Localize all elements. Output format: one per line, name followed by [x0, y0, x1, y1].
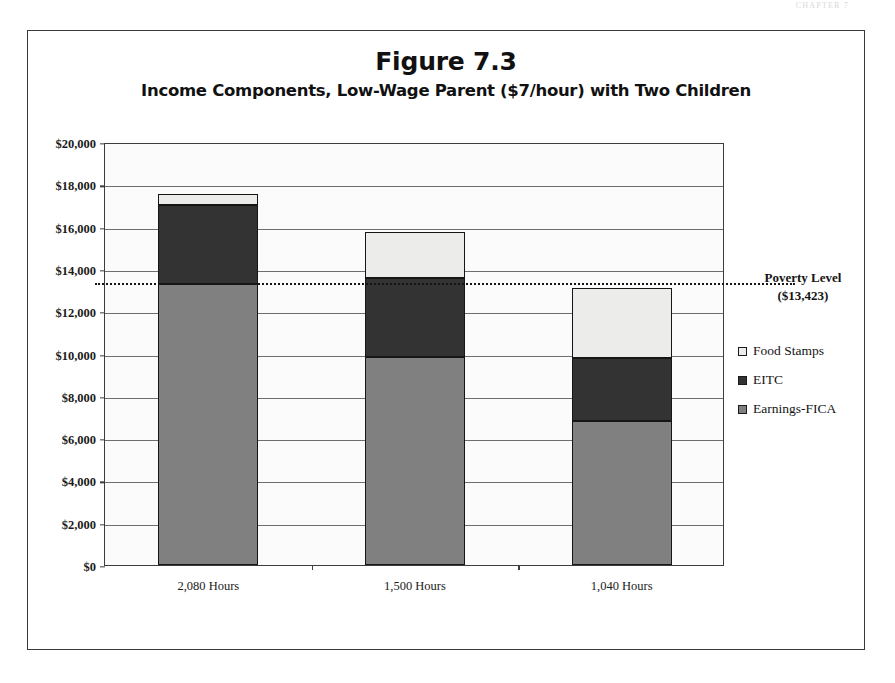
y-tick-mark	[100, 439, 105, 440]
bar-segment-food-stamps	[158, 194, 258, 206]
bar-segment-eitc	[572, 358, 672, 421]
figure-subtitle: Income Components, Low-Wage Parent ($7/h…	[28, 82, 864, 100]
y-tick-label: $16,000	[55, 221, 96, 236]
plot-area: $0$2,000$4,000$6,000$8,000$10,000$12,000…	[104, 143, 724, 566]
y-tick-mark	[100, 228, 105, 229]
page-header-scrap: CHAPTER 7	[796, 1, 849, 10]
legend-item: EITC	[738, 372, 836, 388]
bar-segment-food-stamps	[365, 232, 465, 279]
bar-segment-earnings-fica	[572, 421, 672, 565]
legend-label: EITC	[753, 372, 783, 388]
legend-item: Earnings-FICA	[738, 401, 836, 417]
title-block: Figure 7.3 Income Components, Low-Wage P…	[28, 49, 864, 100]
legend-swatch-icon	[738, 405, 747, 414]
y-tick-mark	[100, 524, 105, 525]
x-tick-label: 1,040 Hours	[591, 579, 653, 594]
legend-swatch-icon	[738, 347, 747, 356]
y-tick-mark	[100, 186, 105, 187]
bar-segment-eitc	[158, 205, 258, 283]
x-tick-label: 2,080 Hours	[177, 579, 239, 594]
legend-swatch-icon	[738, 376, 747, 385]
y-tick-mark	[100, 355, 105, 356]
bar-group	[365, 142, 465, 565]
y-tick-mark	[100, 397, 105, 398]
y-tick-mark	[100, 313, 105, 314]
x-tick-mark	[518, 565, 519, 570]
poverty-reference-line	[95, 283, 795, 285]
bar-segment-food-stamps	[572, 288, 672, 358]
y-tick-label: $0	[84, 560, 97, 575]
x-tick-mark	[312, 565, 313, 570]
y-tick-mark	[100, 566, 105, 567]
bar-segment-eitc	[365, 278, 465, 356]
legend-label: Food Stamps	[753, 343, 824, 359]
y-tick-mark	[100, 270, 105, 271]
y-tick-label: $8,000	[62, 390, 96, 405]
figure-page: CHAPTER 7 Figure 7.3 Income Components, …	[0, 0, 895, 683]
legend-item: Food Stamps	[738, 343, 836, 359]
y-tick-label: $20,000	[55, 137, 96, 152]
y-tick-label: $14,000	[55, 263, 96, 278]
bar-group	[158, 142, 258, 565]
bar-group	[572, 142, 672, 565]
y-tick-label: $6,000	[62, 433, 96, 448]
y-tick-label: $4,000	[62, 475, 96, 490]
y-tick-label: $10,000	[55, 348, 96, 363]
x-tick-label: 1,500 Hours	[384, 579, 446, 594]
y-tick-label: $18,000	[55, 179, 96, 194]
poverty-annotation: Poverty Level ($13,423)	[740, 269, 866, 304]
y-tick-mark	[100, 143, 105, 144]
bar-segment-earnings-fica	[158, 284, 258, 565]
figure-frame: Figure 7.3 Income Components, Low-Wage P…	[27, 30, 865, 650]
legend: Food StampsEITCEarnings-FICA	[738, 343, 836, 430]
figure-title: Figure 7.3	[28, 49, 864, 75]
poverty-annotation-value: ($13,423)	[740, 287, 866, 305]
bar-segment-earnings-fica	[365, 357, 465, 565]
y-tick-label: $2,000	[62, 517, 96, 532]
legend-label: Earnings-FICA	[753, 401, 836, 417]
y-tick-label: $12,000	[55, 306, 96, 321]
y-tick-mark	[100, 482, 105, 483]
